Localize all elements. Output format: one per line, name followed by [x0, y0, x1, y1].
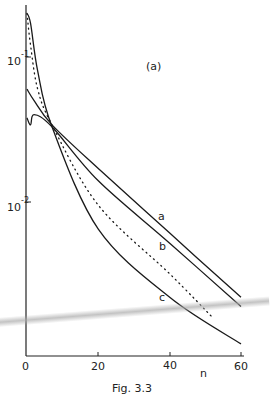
series-layer: [27, 13, 241, 344]
y-tick-label-1e-2: 10-2: [7, 200, 29, 213]
series-b: [27, 115, 241, 307]
curve-label-b: b: [159, 240, 166, 253]
x-tick-label-20: 20: [91, 360, 105, 373]
series-a: [27, 89, 241, 297]
x-tick-label-0: 0: [22, 360, 29, 373]
y2-exp: -2: [21, 196, 29, 205]
y1-exp: -1: [21, 50, 29, 59]
curve-label-a: a: [158, 210, 165, 223]
curve-label-c: c: [159, 291, 165, 304]
x-tick-label-60: 60: [234, 360, 248, 373]
y-tick-label-1e-1: 10-1: [7, 54, 29, 67]
panel-label: (a): [146, 60, 161, 73]
figure-caption: Fig. 3.3: [112, 382, 152, 395]
x-axis-title: n: [200, 367, 207, 380]
series-dotted: [27, 13, 213, 317]
x-tick-label-40: 40: [163, 359, 177, 372]
series-c: [27, 13, 241, 344]
y2-base: 10: [7, 201, 21, 214]
y1-base: 10: [7, 55, 21, 68]
